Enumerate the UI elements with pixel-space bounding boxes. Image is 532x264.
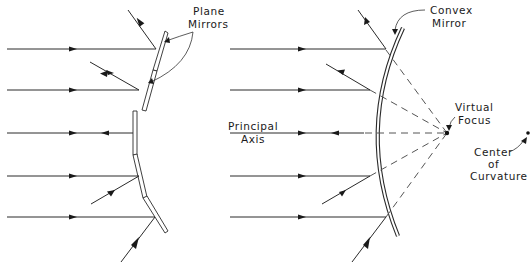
label-axis: Axis	[241, 133, 265, 145]
label-center: Center	[474, 146, 513, 158]
mirror-diagram: Plane Mirrors	[0, 0, 532, 264]
label-of: of	[488, 158, 499, 170]
plane-mirrors-panel: Plane Mirrors	[7, 5, 229, 262]
virtual-focus: Virtual Focus	[445, 101, 494, 135]
center-point	[526, 131, 530, 135]
reflected-rays-left	[90, 10, 156, 262]
label-mirror: Mirror	[432, 17, 467, 29]
label-principal: Principal	[228, 120, 278, 132]
label-convex: Convex	[430, 4, 473, 16]
convex-mirror-panel: Convex Mirror Principal Axis Virtual Foc…	[228, 4, 530, 262]
focus-point	[445, 131, 449, 135]
label-mirrors: Mirrors	[188, 18, 229, 30]
label-focus: Focus	[458, 114, 491, 126]
center-of-curvature: Center of Curvature	[470, 131, 530, 182]
label-virtual: Virtual	[455, 101, 494, 113]
plane-mirror-segments	[133, 31, 168, 233]
convex-mirror	[378, 28, 403, 236]
leader-line	[395, 10, 425, 30]
label-plane: Plane	[193, 5, 225, 17]
leader-line	[166, 32, 193, 41]
plane-mirrors-label: Plane Mirrors	[148, 5, 229, 84]
label-curvature: Curvature	[470, 170, 528, 182]
dashed-lines-to-focus	[365, 50, 447, 217]
